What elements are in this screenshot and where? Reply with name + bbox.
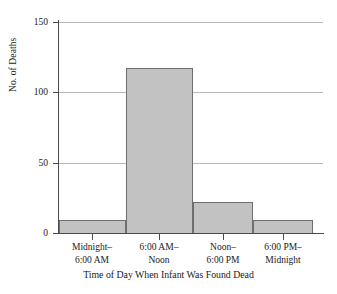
x-axis-title: Time of Day When Infant Was Found Dead bbox=[0, 269, 337, 281]
y-axis-line bbox=[58, 20, 59, 234]
gridline-150 bbox=[59, 22, 323, 23]
x-tick-mark-3 bbox=[223, 234, 224, 240]
bar-6pm-midnight bbox=[253, 220, 313, 234]
x-tick-mark-4 bbox=[283, 234, 284, 240]
x-axis-line bbox=[58, 233, 324, 234]
y-tick-label-100: 100 bbox=[22, 87, 48, 97]
x-tick-mark-1 bbox=[92, 234, 93, 240]
bar-noon-6pm bbox=[193, 202, 253, 234]
y-axis-title: No. of Deaths bbox=[6, 0, 20, 92]
y-tick-label-0: 0 bbox=[22, 228, 48, 238]
bar-midnight-6am bbox=[59, 220, 126, 234]
x-tick-mark-2 bbox=[159, 234, 160, 240]
x-tick-label-line2: Midnight bbox=[241, 254, 325, 267]
x-tick-label-6pm-midnight: 6:00 PM– Midnight bbox=[241, 241, 325, 266]
bar-6am-noon bbox=[126, 68, 193, 234]
y-tick-label-150: 150 bbox=[22, 17, 48, 27]
x-tick-label-line1: 6:00 PM– bbox=[241, 241, 325, 254]
bar-chart-figure: No. of Deaths 150 100 50 0 Midnight– 6:0… bbox=[0, 0, 337, 294]
y-tick-label-50: 50 bbox=[22, 158, 48, 168]
